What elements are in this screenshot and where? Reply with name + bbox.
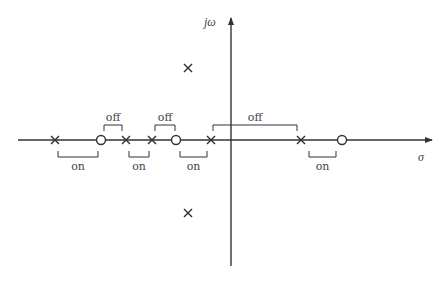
segment-on: on: [58, 151, 98, 173]
segment-on: on: [180, 151, 207, 173]
segment-on: on: [309, 151, 336, 173]
segment-off: off: [104, 111, 122, 131]
segment-label: on: [187, 160, 201, 173]
segment-label: on: [132, 160, 146, 173]
zero-o-icon: [338, 136, 347, 145]
imag-axis-label: jω: [202, 15, 216, 29]
zero-o-icon: [97, 136, 106, 145]
real-axis-label: σ: [418, 150, 425, 164]
pole-x-icon: [184, 209, 192, 217]
segment-on: on: [129, 151, 149, 173]
axes: [18, 18, 432, 266]
segment-label: on: [316, 160, 330, 173]
zero-o-icon: [172, 136, 181, 145]
pole-x-icon: [184, 64, 192, 72]
segment-off: off: [155, 111, 175, 131]
root-locus-diagram: onoffonoffonoffon σ jω: [0, 0, 448, 281]
segment-label: off: [106, 111, 122, 124]
pole-zero-plot: onoffonoffonoffon σ jω: [0, 0, 448, 281]
segment-off: off: [213, 111, 297, 131]
segment-label: on: [71, 160, 85, 173]
segment-label: off: [248, 111, 264, 124]
segment-label: off: [158, 111, 174, 124]
